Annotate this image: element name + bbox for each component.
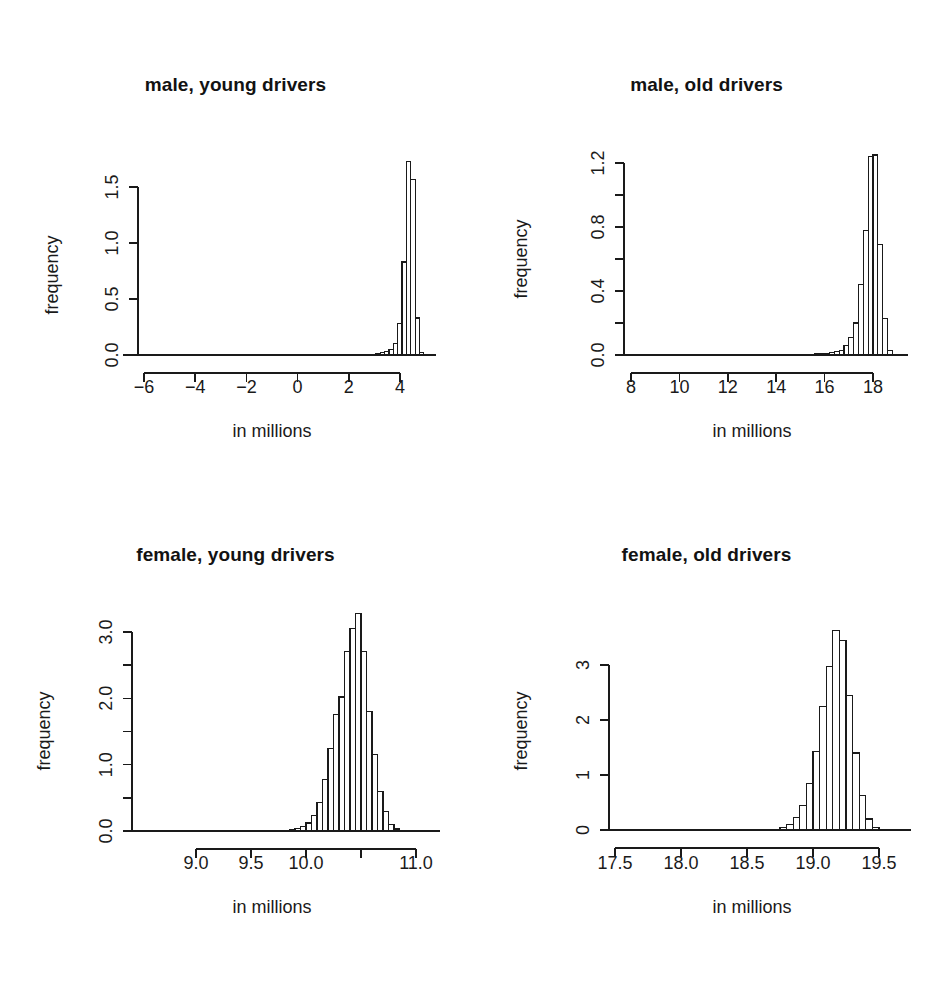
histogram-bar — [883, 318, 888, 355]
x-axis-title: in millions — [232, 421, 311, 441]
histogram-bar — [306, 823, 312, 831]
histogram-bar — [372, 755, 378, 831]
histogram-bar — [863, 230, 868, 355]
plot-area-female-young: 0.01.02.03.0 9.09.510.011.0 frequency in… — [0, 494, 471, 988]
histogram-bar — [398, 324, 402, 355]
x-axis-title: in millions — [232, 897, 311, 917]
histogram-bar — [406, 161, 410, 355]
histogram-bar — [415, 318, 419, 355]
y-tick-label: 1.2 — [588, 150, 608, 175]
histogram-bar — [849, 337, 854, 355]
x-tick-label: 10 — [669, 377, 689, 397]
y-axis: 0.00.51.01.5 — [102, 174, 138, 367]
histogram-bar — [806, 783, 813, 830]
x-tick-label: 8 — [626, 377, 636, 397]
histogram-bar — [853, 753, 860, 830]
x-axis-title: in millions — [712, 421, 791, 441]
y-tick-label: 3.0 — [96, 619, 116, 644]
panel-female-old: female, old drivers 0123 17.518.018.519.… — [471, 494, 942, 988]
x-axis: −6−4−2024 — [134, 373, 405, 397]
histogram-bar — [844, 345, 849, 355]
y-tick-label: 2 — [573, 715, 593, 725]
panel-female-young: female, young drivers 0.01.02.03.0 9.09.… — [0, 494, 471, 988]
histogram-bar — [361, 652, 367, 831]
histogram-bar — [800, 805, 807, 830]
histogram-bar — [846, 695, 853, 830]
x-tick-label: 16 — [815, 377, 835, 397]
x-tick-label: −2 — [236, 377, 257, 397]
histogram-bar — [339, 697, 345, 831]
x-tick-label: 12 — [718, 377, 738, 397]
y-axis-title: frequency — [511, 691, 531, 770]
y-axis-title: frequency — [511, 219, 531, 298]
histogram-bar — [866, 819, 873, 830]
x-axis: 9.09.510.011.0 — [183, 849, 432, 873]
plot-area-female-old: 0123 17.518.018.519.019.5 frequency in m… — [471, 494, 942, 988]
histogram-bar — [873, 155, 878, 355]
histogram-bar — [813, 752, 820, 830]
histogram-bar — [356, 613, 362, 831]
x-tick-label: 9.0 — [183, 853, 208, 873]
histogram-bar — [389, 824, 395, 831]
histogram-bar — [411, 179, 415, 355]
histogram-bar — [859, 796, 866, 830]
histogram-bar — [323, 779, 329, 831]
y-tick-label: 1.0 — [102, 230, 122, 255]
x-tick-label: 19.5 — [861, 853, 896, 873]
x-tick-label: 0 — [293, 377, 303, 397]
histogram-bar — [312, 816, 318, 831]
x-axis-title: in millions — [712, 897, 791, 917]
histogram-bar — [878, 245, 883, 355]
x-tick-label: 18 — [863, 377, 883, 397]
plot-area-male-young: 0.00.51.01.5 −6−4−2024 frequency in mill… — [0, 0, 471, 494]
y-tick-label: 3 — [573, 660, 593, 670]
x-tick-label: 17.5 — [597, 853, 632, 873]
x-tick-label: 18.0 — [663, 853, 698, 873]
histogram-bar — [345, 652, 351, 831]
y-tick-label: 2.0 — [96, 686, 116, 711]
y-axis: 0.01.02.03.0 — [96, 619, 132, 843]
x-tick-label: 4 — [395, 377, 405, 397]
histogram-bar — [787, 825, 794, 831]
x-tick-label: 18.5 — [729, 853, 764, 873]
histogram-bar — [383, 811, 389, 831]
y-tick-label: 1.0 — [96, 752, 116, 777]
panel-male-young: male, young drivers 0.00.51.01.5 −6−4−20… — [0, 0, 471, 494]
histogram-bar — [858, 285, 863, 355]
histogram-bar — [124, 355, 128, 356]
histogram-bar — [833, 631, 840, 830]
x-tick-label: 2 — [344, 377, 354, 397]
x-tick-label: 10.0 — [288, 853, 323, 873]
histogram-bar — [350, 629, 356, 831]
x-tick-label: −6 — [134, 377, 155, 397]
histogram-bar — [389, 349, 393, 355]
y-tick-label: 0.5 — [102, 286, 122, 311]
histogram-bar — [378, 791, 384, 831]
y-tick-label: 0.0 — [102, 342, 122, 367]
histogram-bars — [815, 155, 892, 355]
plot-area-male-old: 0.00.40.81.2 81012141618 frequency in mi… — [471, 0, 942, 494]
histogram-bars — [290, 613, 400, 831]
y-tick-label: 1.5 — [102, 174, 122, 199]
histogram-bar — [793, 818, 800, 830]
panel-male-old: male, old drivers 0.00.40.81.2 810121416… — [471, 0, 942, 494]
y-tick-label: 0.4 — [588, 278, 608, 303]
y-axis: 0123 — [573, 660, 609, 835]
histogram-bar — [854, 323, 859, 355]
histogram-bars — [124, 161, 424, 355]
histogram-bar — [317, 802, 323, 831]
x-tick-label: 19.0 — [795, 853, 830, 873]
histogram-bar — [334, 715, 340, 831]
histogram-bar — [367, 712, 373, 831]
histogram-bar — [826, 666, 833, 830]
figure-canvas: male, young drivers 0.00.51.01.5 −6−4−20… — [0, 0, 942, 988]
x-axis: 81012141618 — [626, 373, 883, 397]
y-tick-label: 0.0 — [96, 818, 116, 843]
y-tick-label: 0.8 — [588, 214, 608, 239]
x-tick-label: 11.0 — [399, 853, 433, 873]
y-axis-title: frequency — [34, 691, 54, 770]
histogram-bar — [839, 640, 846, 830]
x-tick-label: 14 — [766, 377, 786, 397]
histogram-bars — [780, 631, 879, 830]
y-tick-label: 0.0 — [588, 342, 608, 367]
